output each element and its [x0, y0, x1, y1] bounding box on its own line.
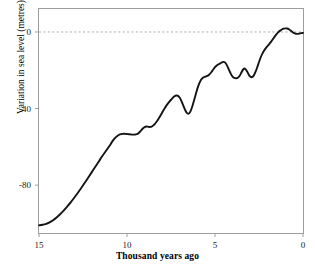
chart-background: [0, 0, 315, 265]
y-tick-label: -80: [0, 180, 31, 190]
x-tick-label: 15: [35, 240, 44, 250]
x-tick-label: 0: [301, 240, 306, 250]
y-axis-title: Variation in sea level (metres): [16, 0, 26, 142]
chart-canvas: [0, 0, 315, 265]
x-tick-label: 10: [123, 240, 132, 250]
sea-level-chart-figure: 0-40-80151050 Variation in sea level (me…: [0, 0, 315, 265]
x-tick-label: 5: [213, 240, 218, 250]
x-axis-title: Thousand years ago: [0, 251, 315, 261]
